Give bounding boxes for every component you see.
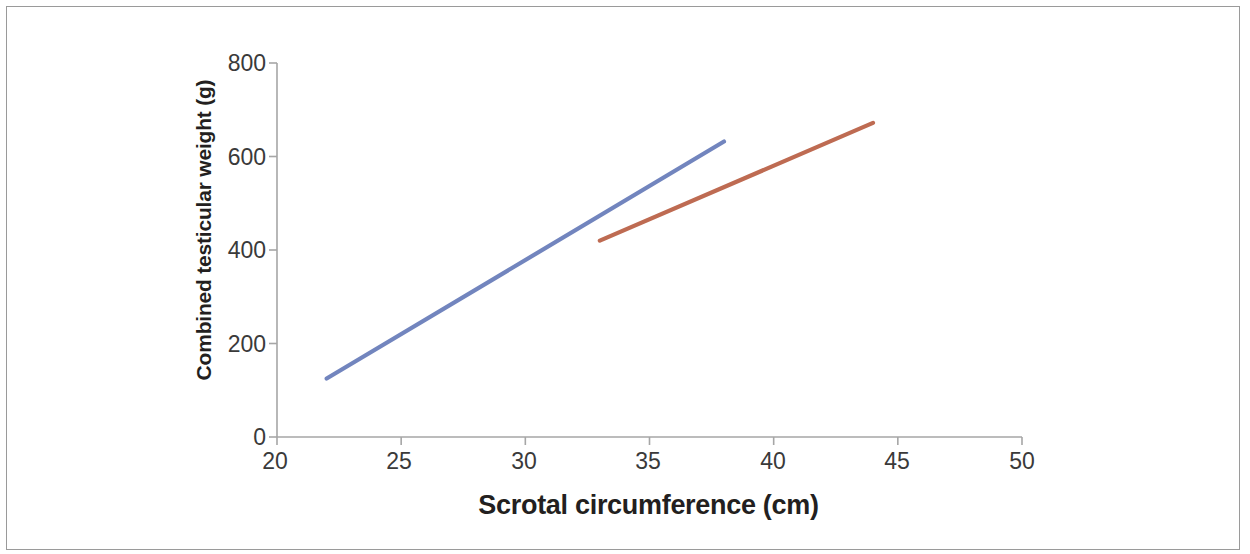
x-tick-marks: [277, 437, 1022, 445]
scatter-regression-chart: Combined testicular weight (g) 800 600 4…: [0, 0, 1250, 554]
series-line-1: [327, 142, 724, 379]
plot-canvas: [0, 0, 1250, 554]
series-line-2: [600, 123, 873, 241]
axis-lines: [277, 63, 1022, 437]
x-axis-title: Scrotal circumference (cm): [275, 490, 1022, 521]
data-series-group: [327, 123, 873, 379]
y-tick-marks: [269, 63, 277, 437]
